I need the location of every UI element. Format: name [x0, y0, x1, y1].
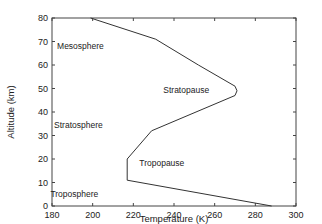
y-tick-label: 80 [38, 13, 48, 23]
y-tick-label: 40 [38, 107, 48, 117]
y-tick-label: 0 [43, 201, 48, 211]
y-tick-label: 70 [38, 37, 48, 47]
chart: 180200220240260280300 01020304050607080 … [0, 0, 322, 224]
x-tick-label: 220 [126, 210, 141, 220]
x-tick-label: 200 [85, 210, 100, 220]
x-tick-label: 180 [44, 210, 59, 220]
x-tick-label: 260 [207, 210, 222, 220]
y-tick-label: 30 [38, 131, 48, 141]
annotations: MesosphereStratopauseStratosphereTropopa… [50, 41, 209, 199]
annotation-mesosphere: Mesosphere [57, 41, 104, 51]
y-tick-label: 60 [38, 60, 48, 70]
y-tick-label: 10 [38, 178, 48, 188]
x-tick-label: 300 [288, 210, 303, 220]
x-axis-label: Temperature (K) [140, 213, 209, 224]
y-tick-label: 50 [38, 84, 48, 94]
annotation-tropopause: Tropopause [139, 158, 184, 168]
annotation-troposphere: Troposphere [50, 189, 98, 199]
x-tick-label: 280 [248, 210, 263, 220]
series-line-temperature-profile [91, 18, 272, 206]
annotation-stratosphere: Stratosphere [54, 120, 103, 130]
y-axis-label: Altitude (km) [5, 85, 16, 138]
y-tick-labels: 01020304050607080 [38, 13, 48, 211]
y-tick-label: 20 [38, 154, 48, 164]
annotation-stratopause: Stratopause [163, 85, 209, 95]
